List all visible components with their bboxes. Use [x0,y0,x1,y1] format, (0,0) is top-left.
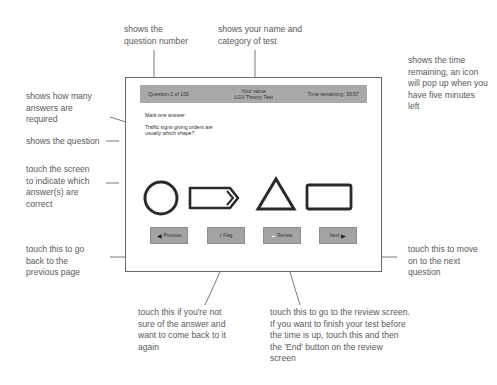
next-label: Next [330,233,339,238]
callout-answers-required: shows how many answers are required [26,91,106,126]
callout-name-category: shows your name and category of test [218,24,308,47]
answer-arrow-rectangle[interactable] [190,188,238,208]
callout-flag: touch this if you're not sure of the ans… [138,307,233,353]
answer-rectangle[interactable] [307,185,351,209]
review-label: Review [277,233,292,238]
callout-question: shows the question [26,136,106,148]
answer-triangle[interactable] [258,179,294,209]
exclamation-icon: ! [220,233,222,239]
arrow-left-icon: ◀ [157,232,162,239]
previous-button[interactable]: ◀ Previous [150,227,188,244]
arrow-right-icon: ▶ [341,232,346,239]
review-button[interactable]: ▪▪ Review [263,227,301,244]
callout-time: shows the time remaining, an icon will p… [408,55,488,113]
callout-previous: touch this to go back to the previous pa… [26,244,96,279]
next-button[interactable]: Next ▶ [319,227,357,244]
test-screen: Question 2 of 100 Your name LGV Theory T… [125,77,382,272]
flag-label: Flag [223,233,232,238]
flag-button[interactable]: ! Flag [207,227,245,244]
review-icon: ▪▪ [272,233,276,239]
callout-question-number: shows the question number [124,24,194,47]
answer-circle[interactable] [145,182,177,214]
previous-label: Previous [164,233,182,238]
callout-review: touch this to go to the review screen. I… [270,307,410,365]
callout-touch-screen: touch the screen to indicate which answe… [26,164,98,210]
callout-next: touch this to move on to the next questi… [408,244,478,279]
